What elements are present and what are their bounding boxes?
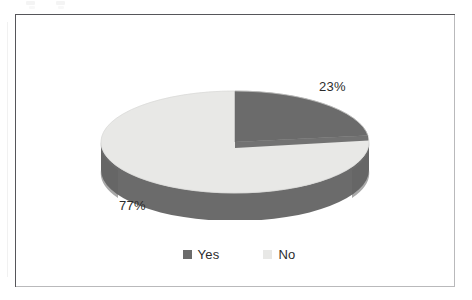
- legend-label-no: No: [278, 247, 295, 262]
- scan-artifact: [26, 1, 35, 5]
- legend-entry-yes[interactable]: Yes: [183, 247, 220, 262]
- page-root: 23% 77% Yes No: [0, 0, 472, 300]
- data-label-no-percent: 77%: [119, 198, 146, 213]
- legend-entry-no[interactable]: No: [263, 247, 295, 262]
- legend-label-yes: Yes: [198, 247, 220, 262]
- legend-swatch-no: [263, 250, 272, 259]
- scan-artifact: [58, 6, 64, 9]
- legend-swatch-yes: [183, 250, 192, 259]
- chart-legend: Yes No: [134, 243, 344, 265]
- scan-artifact: [29, 6, 35, 9]
- chart-frame: 23% 77% Yes No: [15, 14, 455, 287]
- data-label-yes-percent: 23%: [319, 79, 346, 94]
- scan-edge-line: [7, 22, 8, 277]
- pie-slice-yes: [235, 91, 368, 142]
- scan-artifact: [56, 1, 65, 5]
- plot-area: 23% 77% Yes No: [16, 15, 454, 286]
